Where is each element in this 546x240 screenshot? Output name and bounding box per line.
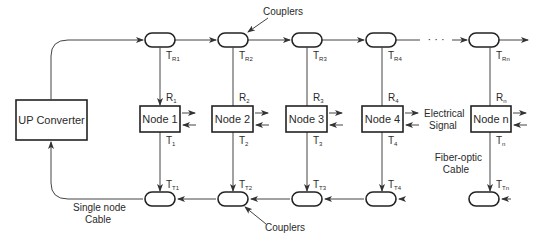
svg-text:TR4: TR4: [388, 50, 402, 62]
svg-text:TR3: TR3: [313, 50, 327, 62]
svg-text:Node 3: Node 3: [289, 113, 324, 125]
return-line: [51, 142, 143, 199]
svg-text:TR1: TR1: [166, 50, 180, 62]
svg-text:Node 2: Node 2: [215, 113, 250, 125]
coupler-bottom-n: [469, 192, 499, 206]
svg-text:TTn: TTn: [496, 179, 509, 191]
svg-text:R3: R3: [313, 92, 324, 104]
electrical-signal-label: ElectricalSignal: [424, 108, 465, 131]
svg-text:TRn: TRn: [496, 50, 510, 62]
svg-text:TT4: TT4: [388, 179, 402, 191]
node-4: Node 4 TR4 R4 T4 TT4: [362, 47, 419, 191]
node-1: Node 1 TR1 R1 T1 TT1: [140, 47, 196, 191]
svg-text:T1: T1: [166, 135, 176, 147]
svg-text:R1: R1: [166, 92, 177, 104]
coupler-bottom-1: [145, 192, 175, 206]
coupler-top-n: [469, 33, 499, 47]
svg-text:Node 4: Node 4: [365, 113, 400, 125]
svg-text:R2: R2: [239, 92, 250, 104]
coupler-top-1: [145, 33, 175, 47]
coupler-top-2: [218, 33, 248, 47]
svg-text:T4: T4: [388, 135, 398, 147]
ring-network-diagram: UP Converter · · · Node 1 TR1 R1 T1 TT1: [0, 0, 546, 240]
svg-text:Tn: Tn: [496, 135, 505, 147]
coupler-top-3: [292, 33, 322, 47]
couplers-bottom-label: Couplers: [265, 222, 305, 233]
node-2: Node 2 TR2 R2 T2 TT2: [212, 47, 269, 191]
svg-text:TR2: TR2: [239, 50, 253, 62]
ellipsis: · · ·: [427, 33, 444, 45]
coupler-bottom-4: [366, 192, 396, 206]
svg-text:TT1: TT1: [166, 179, 180, 191]
couplers-top-label: Couplers: [263, 6, 303, 17]
single-node-cable-label: Single nodeCable: [73, 202, 126, 225]
svg-text:T2: T2: [239, 135, 249, 147]
svg-text:Rn: Rn: [496, 92, 507, 104]
fiber-optic-label: Fiber-opticCable: [435, 152, 482, 175]
svg-text:T3: T3: [313, 135, 323, 147]
node-n: Node n TRn Rn Tn TTn: [471, 47, 527, 191]
coupler-top-4: [366, 33, 396, 47]
coupler-bottom-3: [292, 192, 322, 206]
up-converter: UP Converter: [16, 100, 87, 140]
top-feed-line: [51, 40, 143, 100]
node-3: Node 3 TR3 R3 T3 TT3: [286, 47, 343, 191]
svg-text:Node 1: Node 1: [142, 113, 177, 125]
svg-text:Node n: Node n: [473, 113, 508, 125]
svg-text:TT3: TT3: [313, 179, 327, 191]
coupler-bottom-2: [218, 192, 248, 206]
up-converter-label: UP Converter: [18, 114, 85, 126]
svg-text:R4: R4: [388, 92, 399, 104]
svg-text:TT2: TT2: [239, 179, 253, 191]
